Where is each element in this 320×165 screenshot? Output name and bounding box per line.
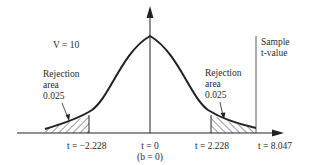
sample-label-line2: t-value — [261, 48, 287, 59]
sample-label-line1: Sample — [261, 37, 290, 48]
right-critical-value-label: t = 2.228 — [195, 141, 229, 152]
density-axis-arrow-icon — [147, 6, 154, 18]
left-rejection-label-line1: Rejection — [43, 69, 79, 80]
right-rejection-region — [211, 115, 256, 133]
right-rejection-label-line3: 0.025 — [205, 90, 226, 101]
center-label-line1: t = 0 — [128, 141, 172, 152]
center-label-line2: (b = 0) — [128, 152, 172, 163]
left-rejection-label-line3: 0.025 — [43, 91, 64, 102]
degrees-of-freedom-label: V = 10 — [53, 40, 79, 51]
left-rejection-region — [45, 115, 89, 133]
sample-t-value-label: t = 8.047 — [258, 141, 292, 152]
right-rejection-label-line2: area — [205, 79, 221, 90]
left-critical-value-label: t = −2.228 — [67, 141, 106, 152]
right-rejection-label-line1: Rejection — [205, 68, 241, 79]
t-axis-arrow-icon — [272, 130, 284, 137]
left-rejection-label-line2: area — [43, 80, 59, 91]
